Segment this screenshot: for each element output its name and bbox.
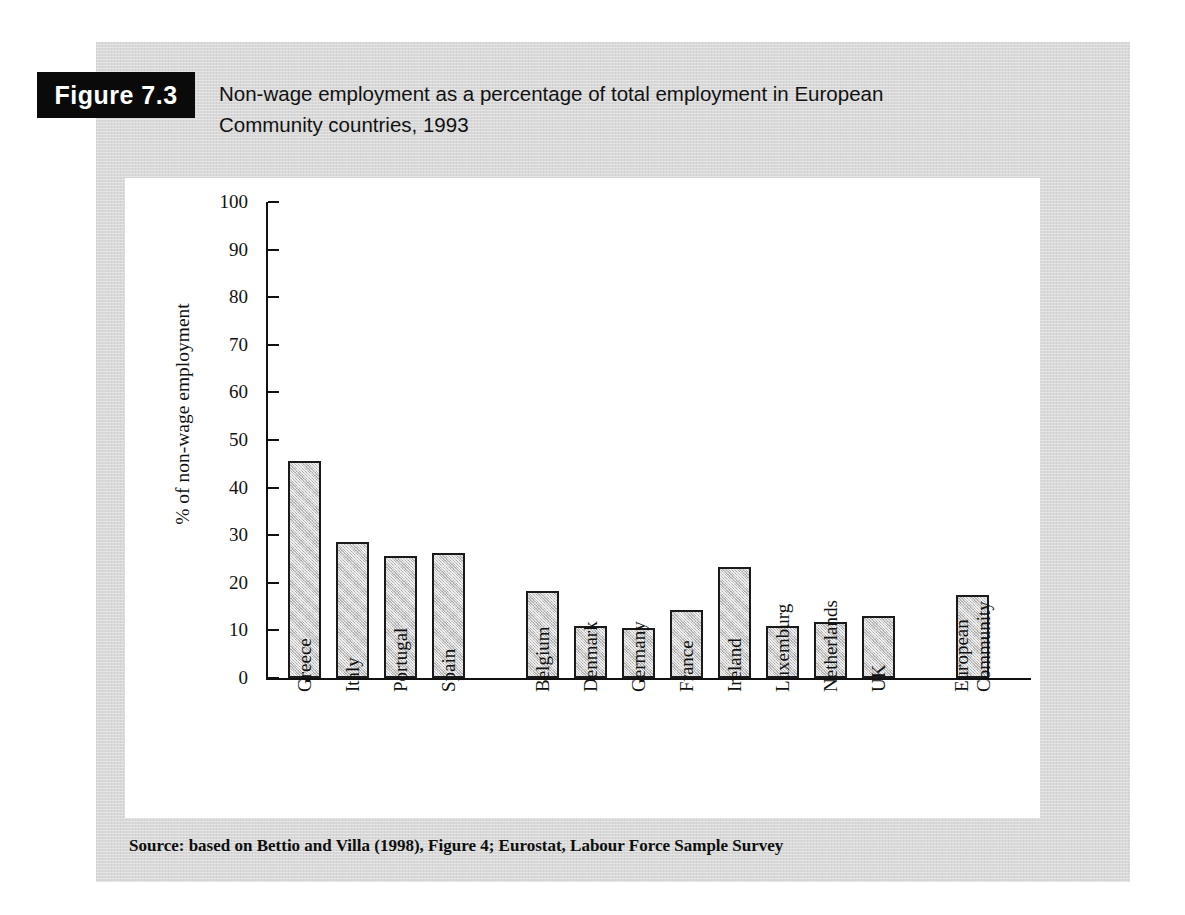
category-label: France	[676, 640, 697, 692]
category-label-line: Germany	[628, 621, 649, 692]
category-label-line: Spain	[438, 649, 459, 692]
y-tick-label: 60	[204, 382, 248, 401]
category-label: Germany	[628, 621, 649, 692]
category-label-line: Denmark	[580, 621, 601, 692]
category-label: Ireland	[724, 638, 745, 692]
y-tick-mark	[268, 677, 279, 679]
y-tick-mark	[268, 391, 279, 393]
category-label: Greece	[294, 638, 315, 692]
y-tick-label: 80	[204, 287, 248, 306]
y-axis-line	[266, 202, 268, 680]
figure-caption: Non-wage employment as a percentage of t…	[219, 78, 1009, 140]
category-label: Belgium	[532, 627, 553, 692]
y-tick-label: 100	[204, 192, 248, 211]
figure-caption-line-1: Non-wage employment as a percentage of t…	[219, 78, 1009, 109]
figure-caption-line-2: Community countries, 1993	[219, 109, 1009, 140]
category-label-line: Community	[973, 601, 995, 692]
source-note: Source: based on Bettio and Villa (1998)…	[129, 836, 783, 856]
category-label: Luxemburg	[772, 604, 793, 692]
category-label: Portugal	[390, 628, 411, 692]
y-tick-mark	[268, 629, 279, 631]
bar-chart: % of non-wage employment 010203040506070…	[125, 178, 1040, 818]
y-tick-mark	[268, 296, 279, 298]
y-tick-label: 50	[204, 430, 248, 449]
category-label-line: France	[676, 640, 697, 692]
y-tick-mark	[268, 439, 279, 441]
y-tick-mark	[268, 582, 279, 584]
category-label-line: Portugal	[390, 628, 411, 692]
category-label-line: Ireland	[724, 638, 745, 692]
y-tick-label: 0	[204, 668, 248, 687]
category-label-line: UK	[868, 665, 889, 692]
y-tick-label: 10	[204, 620, 248, 639]
y-tick-label: 70	[204, 335, 248, 354]
category-label: UK	[868, 665, 889, 692]
category-label-line: European	[951, 601, 973, 692]
category-label-line: Greece	[294, 638, 315, 692]
category-label-line: Luxemburg	[772, 604, 793, 692]
category-label: Spain	[438, 649, 459, 692]
y-tick-mark	[268, 249, 279, 251]
category-label: Denmark	[580, 621, 601, 692]
y-axis-title: % of non-wage employment	[172, 204, 194, 624]
y-tick-label: 40	[204, 478, 248, 497]
category-label-line: Italy	[342, 657, 363, 692]
y-tick-label: 20	[204, 573, 248, 592]
y-tick-label: 90	[204, 240, 248, 259]
figure-number-badge: Figure 7.3	[37, 72, 195, 118]
plot-panel: % of non-wage employment 010203040506070…	[125, 178, 1040, 818]
category-label-line: Belgium	[532, 627, 553, 692]
y-tick-mark	[268, 487, 279, 489]
category-label: Italy	[342, 657, 363, 692]
y-tick-mark	[268, 344, 279, 346]
category-label: EuropeanCommunity	[951, 601, 995, 692]
y-tick-mark	[268, 534, 279, 536]
category-label: Netherlands	[820, 600, 841, 692]
category-label-line: Netherlands	[820, 600, 841, 692]
y-tick-mark	[268, 201, 279, 203]
y-tick-label: 30	[204, 525, 248, 544]
